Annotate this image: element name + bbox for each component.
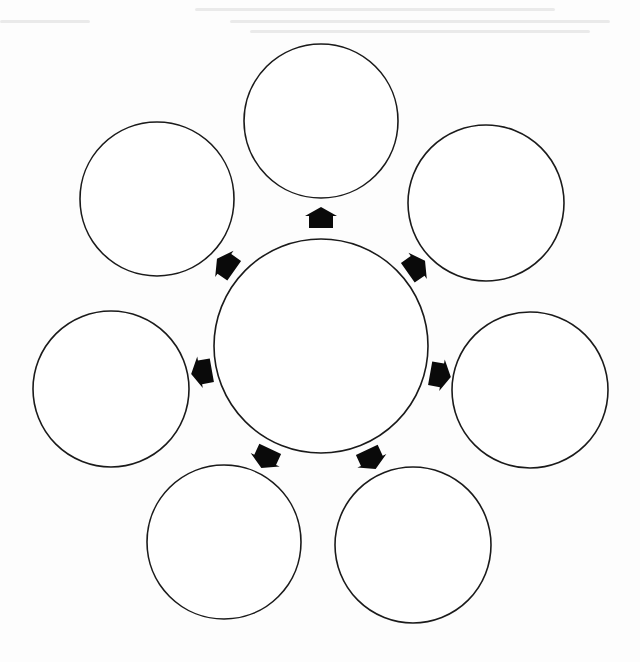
circle-upper-right [408,125,564,281]
circle-lower-left [147,465,301,619]
arrow-right-icon [427,358,453,393]
circle-lower-right-shape [335,467,491,623]
circle-top [244,44,398,198]
circle-top-shape [244,44,398,198]
circle-lower-right [335,467,491,623]
diagram-canvas [0,0,640,662]
circle-right [452,312,608,468]
circle-right-shape [452,312,608,468]
circle-upper-left-shape [80,122,234,276]
circle-center-shape [214,239,428,453]
radial-organizer [0,0,640,662]
circle-center [214,239,428,453]
circle-left [33,311,189,467]
circle-upper-left [80,122,234,276]
arrow-left-icon [188,355,214,390]
circle-lower-left-shape [147,465,301,619]
circle-upper-right-shape [408,125,564,281]
arrow-lower-right-icon [352,443,390,476]
center-node [214,239,428,453]
circle-left-shape [33,311,189,467]
arrow-top-icon [305,207,337,228]
